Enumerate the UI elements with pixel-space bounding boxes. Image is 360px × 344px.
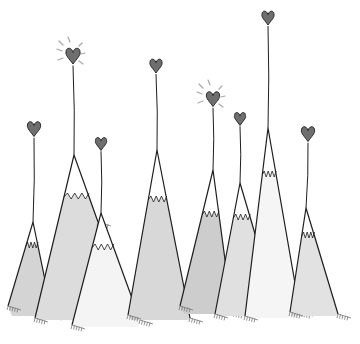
heart-balloon <box>57 37 85 64</box>
mountain-foot-scribble <box>189 318 203 324</box>
mountain <box>289 208 351 320</box>
heart-icon <box>150 59 162 73</box>
balloon-string <box>101 151 102 213</box>
balloon-string <box>268 26 269 128</box>
glow-ray <box>81 53 85 54</box>
mountain-foot-scribble <box>139 320 153 326</box>
heart-balloons <box>27 11 314 150</box>
glow-ray <box>197 92 202 94</box>
heart-balloon <box>150 59 162 73</box>
mountain-body <box>290 232 338 316</box>
glow-ray <box>57 49 62 51</box>
heart-icon <box>262 11 274 25</box>
heart-icon <box>95 138 106 151</box>
heart-icon <box>27 122 40 137</box>
heart-balloon <box>27 122 40 137</box>
mountains <box>7 128 351 331</box>
heart-icon <box>206 92 219 107</box>
balloon-string <box>306 143 308 208</box>
mountain-foot-scribble <box>337 314 351 320</box>
mountain-heart-illustration <box>0 0 360 344</box>
heart-icon <box>66 48 80 64</box>
heart-balloon <box>95 138 106 151</box>
heart-balloon <box>197 80 225 107</box>
balloon-string <box>240 126 241 183</box>
balloon-string <box>213 108 214 170</box>
heart-balloon <box>301 127 314 142</box>
heart-icon <box>301 127 314 142</box>
balloon-string <box>156 74 157 150</box>
heart-balloon <box>234 113 245 126</box>
illustration-canvas <box>0 0 360 344</box>
balloon-string <box>33 138 34 222</box>
heart-balloon <box>262 11 274 25</box>
glow-ray <box>219 104 223 107</box>
heart-icon <box>234 113 245 126</box>
glow-ray <box>208 80 210 85</box>
glow-ray <box>79 43 82 46</box>
glow-ray <box>58 58 63 60</box>
glow-ray <box>219 86 222 89</box>
glow-ray <box>199 84 203 88</box>
glow-ray <box>198 101 203 103</box>
glow-ray <box>221 96 225 97</box>
glow-ray <box>68 37 70 42</box>
glow-ray <box>59 41 63 45</box>
balloon-string <box>73 66 74 156</box>
glow-ray <box>79 61 83 64</box>
